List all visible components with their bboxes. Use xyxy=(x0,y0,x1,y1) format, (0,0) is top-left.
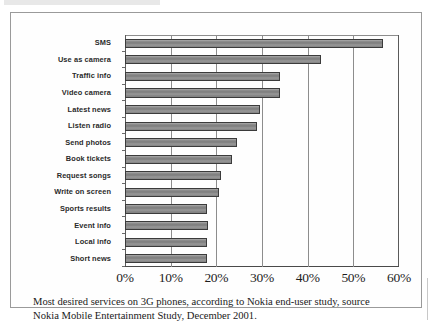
bar-row xyxy=(125,151,399,168)
bar-send-photos xyxy=(125,138,237,147)
bar-row xyxy=(125,234,399,251)
plot-area xyxy=(125,35,399,267)
bar-event-info xyxy=(125,221,208,230)
page-canvas: SMSUse as cameraTraffic infoVideo camera… xyxy=(0,0,434,321)
bar-video-camera xyxy=(125,88,280,97)
scan-artifact-left xyxy=(0,0,4,321)
bar-row xyxy=(125,250,399,267)
x-tick-label-50%: 50% xyxy=(341,270,365,286)
bar-latest-news xyxy=(125,105,260,114)
bar-row xyxy=(125,85,399,102)
category-label-latest-news: Latest news xyxy=(68,104,111,113)
category-label-video-camera: Video camera xyxy=(62,88,111,97)
bar-row xyxy=(125,68,399,85)
bar-row xyxy=(125,168,399,185)
bar-row xyxy=(125,52,399,69)
bar-row xyxy=(125,35,399,52)
category-label-listen-radio: Listen radio xyxy=(68,121,111,130)
bar-row xyxy=(125,184,399,201)
category-label-send-photos: Send photos xyxy=(65,137,111,146)
bar-traffic-info xyxy=(125,72,280,81)
bar-short-news xyxy=(125,254,207,263)
page-right-rule xyxy=(427,278,428,320)
category-label-sports-results: Sports results xyxy=(60,204,111,213)
category-axis-labels: SMSUse as cameraTraffic infoVideo camera… xyxy=(21,35,117,269)
bar-sms xyxy=(125,39,383,48)
bar-request-songs xyxy=(125,171,221,180)
caption-line-1: Most desired services on 3G phones, acco… xyxy=(33,296,370,307)
category-label-event-info: Event info xyxy=(74,220,111,229)
x-tick-label-0%: 0% xyxy=(116,270,133,286)
bar-write-on-screen xyxy=(125,188,219,197)
category-label-book-tickets: Book tickets xyxy=(66,154,111,163)
caption-line-2: Nokia Mobile Entertainment Study, Decemb… xyxy=(33,309,425,321)
category-label-request-songs: Request songs xyxy=(57,171,111,180)
x-tick-label-10%: 10% xyxy=(159,270,183,286)
figure-frame: SMSUse as cameraTraffic infoVideo camera… xyxy=(10,12,422,308)
category-label-sms: SMS xyxy=(95,38,111,47)
category-label-short-news: Short news xyxy=(70,253,111,262)
bar-sports-results xyxy=(125,204,207,213)
figure-caption: Most desired services on 3G phones, acco… xyxy=(33,295,425,321)
scan-artifact-top xyxy=(0,0,160,5)
x-tick-label-40%: 40% xyxy=(296,270,320,286)
x-tick-label-30%: 30% xyxy=(250,270,274,286)
bar-local-info xyxy=(125,238,207,247)
bar-chart: SMSUse as cameraTraffic infoVideo camera… xyxy=(21,27,421,275)
x-axis-tick-labels: 0%10%20%30%40%50%60% xyxy=(125,270,425,290)
category-label-use-as-camera: Use as camera xyxy=(58,55,111,64)
category-tick xyxy=(122,266,125,267)
category-label-write-on-screen: Write on screen xyxy=(54,187,111,196)
bar-row xyxy=(125,134,399,151)
bar-listen-radio xyxy=(125,122,257,131)
category-label-local-info: Local info xyxy=(75,237,111,246)
bar-book-tickets xyxy=(125,155,232,164)
plot-inner xyxy=(125,35,399,267)
bar-row xyxy=(125,201,399,218)
x-tick-label-60%: 60% xyxy=(387,270,411,286)
bar-row xyxy=(125,118,399,135)
bar-use-as-camera xyxy=(125,55,321,64)
category-label-traffic-info: Traffic info xyxy=(72,71,111,80)
bar-row xyxy=(125,101,399,118)
x-tick-label-20%: 20% xyxy=(204,270,228,286)
bar-row xyxy=(125,217,399,234)
